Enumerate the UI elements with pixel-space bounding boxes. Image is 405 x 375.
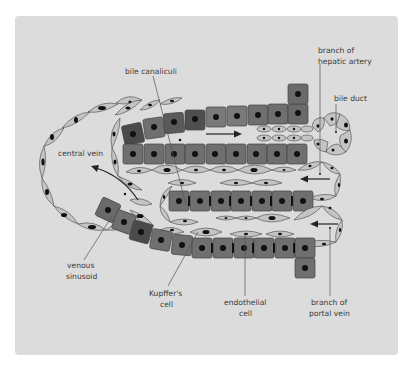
portal-vein-flow-arrow xyxy=(310,221,338,228)
diagram-panel: bile canaliculi branch of hepatic artery… xyxy=(15,16,398,355)
bile-canaliculus-dot xyxy=(179,139,182,142)
label-hepatic-artery-2: hepatic artery xyxy=(318,57,372,66)
label-venous-sinusoid-2: sinusoid xyxy=(66,272,97,281)
label-venous-sinusoid-1: venous xyxy=(67,261,94,270)
label-portal-vein-2: portal vein xyxy=(309,309,350,318)
liver-lobule-diagram: bile canaliculi branch of hepatic artery… xyxy=(15,16,398,355)
ductule-cells xyxy=(257,126,313,141)
label-kupffer-1: Kupffer's xyxy=(149,289,182,298)
label-bile-canaliculi: bile canaliculi xyxy=(125,67,177,76)
bile-flow-arrow xyxy=(206,131,242,138)
hepatic-artery-flow-arrow xyxy=(300,176,330,183)
label-bile-duct: bile duct xyxy=(334,94,367,103)
label-endothelial-1: endothelial xyxy=(224,298,266,307)
label-endothelial-2: cell xyxy=(239,309,252,318)
label-portal-vein-1: branch of xyxy=(311,298,347,307)
label-central-vein: central vein xyxy=(58,149,103,158)
lower-sinusoid-cells xyxy=(160,214,294,237)
label-hepatic-artery-1: branch of xyxy=(318,46,354,55)
hepatocyte-row-3 xyxy=(169,191,313,211)
label-kupffer-2: cell xyxy=(160,300,173,309)
middle-sinusoid-cells xyxy=(126,165,296,186)
hepatocyte-row-2 xyxy=(123,144,307,164)
bile-duct xyxy=(312,113,351,155)
